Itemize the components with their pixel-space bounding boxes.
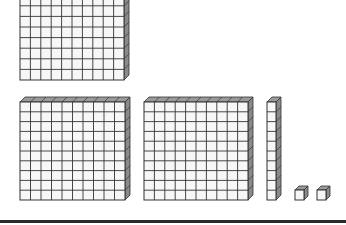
unit-cube-1 <box>295 186 308 200</box>
baseline-rule <box>0 220 346 223</box>
blocks-canvas <box>0 0 346 225</box>
unit-cube-2 <box>317 186 330 200</box>
base-ten-blocks-diagram <box>0 0 346 225</box>
ten-rod <box>267 97 281 200</box>
hundred-flat-bottom-middle <box>144 97 253 200</box>
hundred-flat-bottom-left <box>20 97 130 200</box>
hundred-flat-top <box>20 0 129 80</box>
